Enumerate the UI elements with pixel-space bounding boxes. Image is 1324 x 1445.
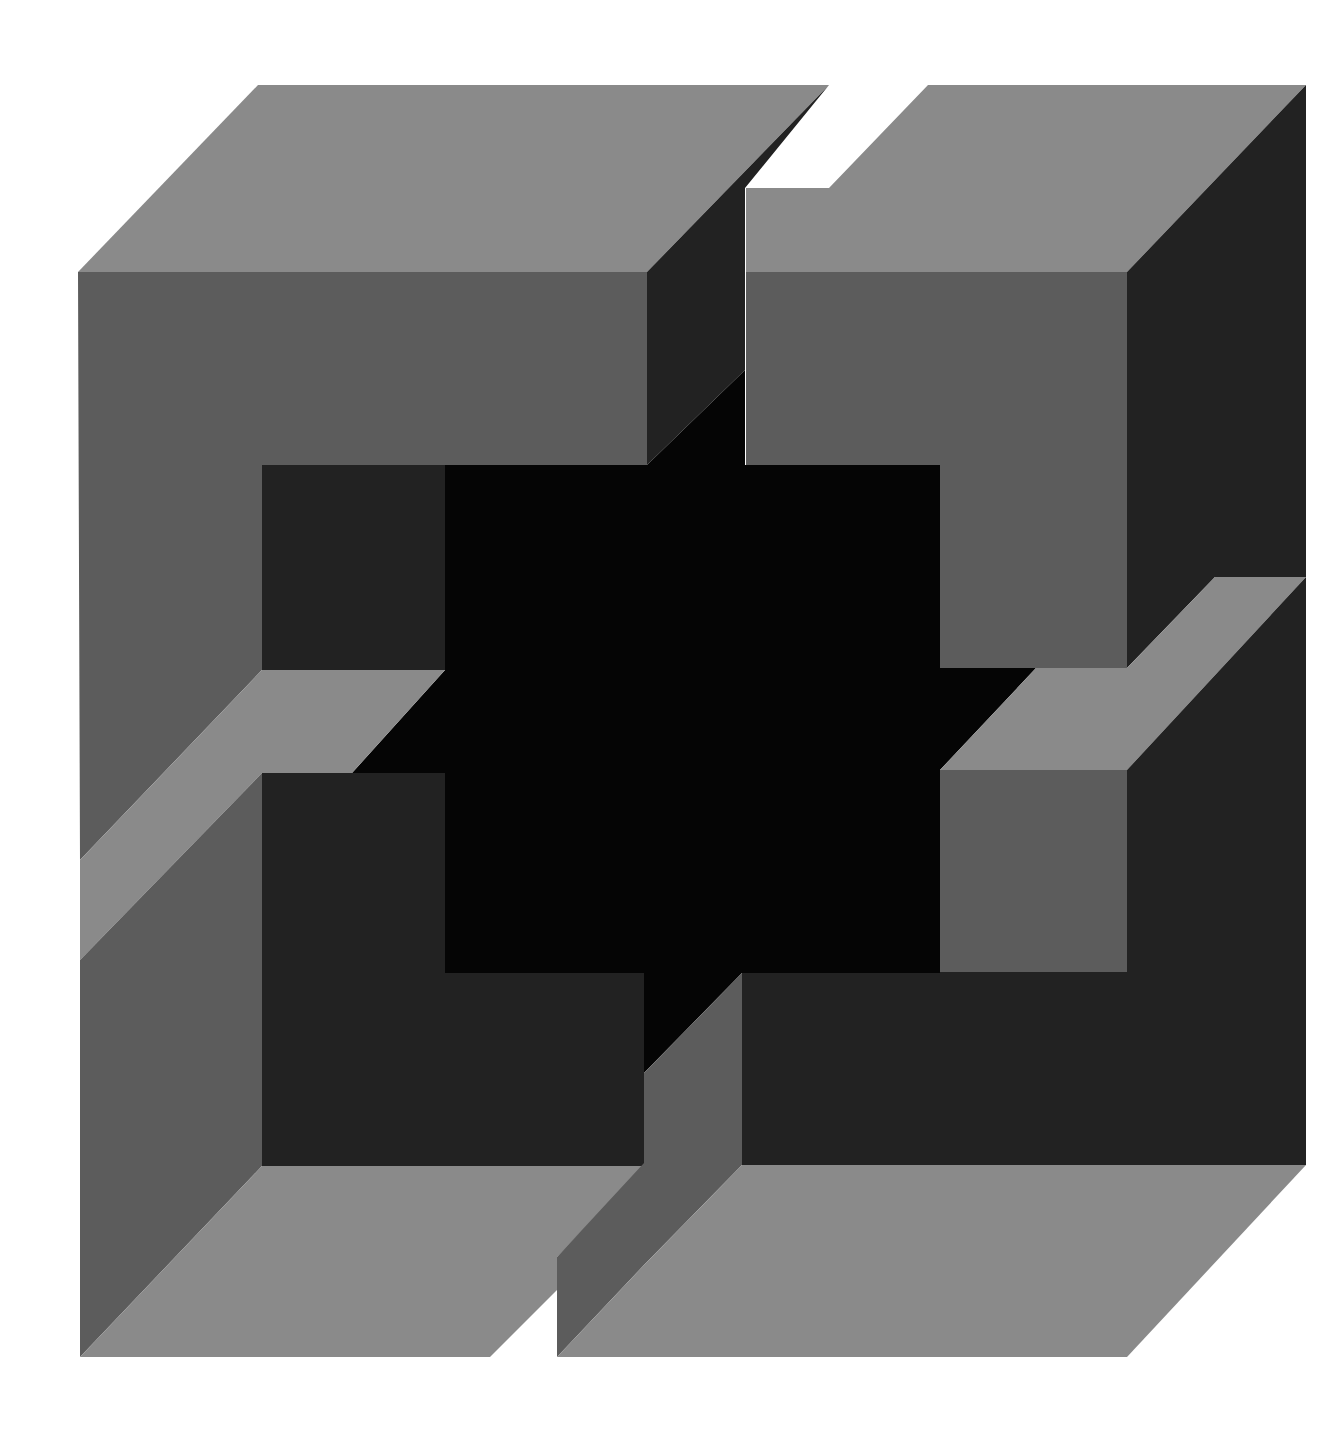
tl-hole-back <box>262 465 445 670</box>
tr-hole-front <box>940 770 1127 972</box>
center-black <box>352 370 1036 1073</box>
cube-artwork <box>0 0 1324 1445</box>
shape-layer <box>78 85 1306 1357</box>
